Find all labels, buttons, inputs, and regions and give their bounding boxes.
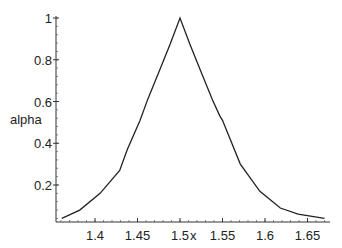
axes bbox=[56, 16, 330, 222]
x-tick-label: 1.55 bbox=[210, 228, 235, 243]
y-tick-label: 0.8 bbox=[34, 53, 52, 68]
x-axis-label: x bbox=[190, 228, 197, 243]
x-tick-label: 1.6 bbox=[256, 228, 274, 243]
x-tick-label: 1.65 bbox=[295, 228, 320, 243]
y-axis-label: alpha bbox=[10, 112, 43, 127]
y-tick-label: 0.6 bbox=[34, 95, 52, 110]
x-tick-label: 1.4 bbox=[86, 228, 104, 243]
y-tick-label: 1 bbox=[45, 11, 52, 26]
data-line bbox=[62, 18, 325, 218]
y-tick-label: 0.2 bbox=[34, 178, 52, 193]
x-tick-label: 1.45 bbox=[125, 228, 150, 243]
chart: 1.41.451.51.551.61.650.20.40.60.81 alpha… bbox=[0, 0, 342, 248]
y-tick-label: 0.4 bbox=[34, 136, 52, 151]
x-tick-label: 1.5 bbox=[171, 228, 189, 243]
